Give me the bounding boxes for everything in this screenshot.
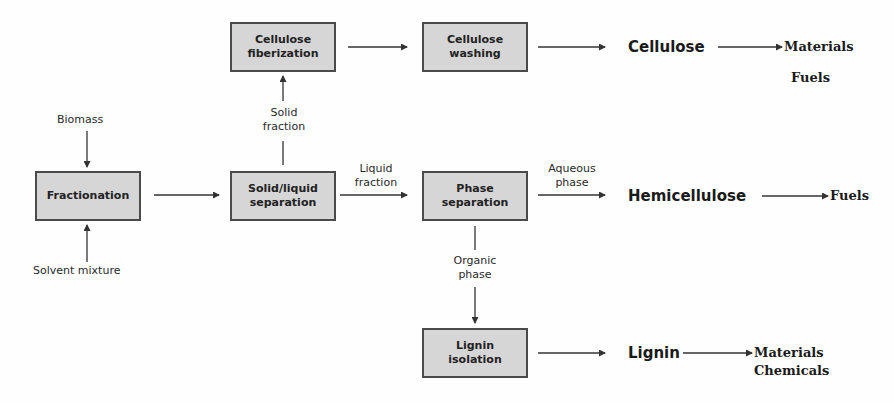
- use-lignin-chemicals: Chemicals: [754, 363, 829, 378]
- node-label-line: washing: [449, 47, 500, 61]
- label-line: phase: [538, 176, 606, 190]
- node-label-line: separation: [442, 196, 509, 210]
- node-label-line: isolation: [448, 353, 502, 367]
- label-line: Liquid: [346, 162, 406, 176]
- label-line: Aqueous: [538, 162, 606, 176]
- use-hemicellulose-fuels: Fuels: [830, 188, 869, 203]
- node-label-line: separation: [250, 196, 317, 210]
- input-solvent-mixture: Solvent mixture: [33, 264, 120, 278]
- product-lignin: Lignin: [628, 344, 680, 362]
- node-label-line: Lignin: [456, 339, 494, 353]
- node-label-line: fiberization: [248, 47, 319, 61]
- node-solid-liquid-separation: Solid/liquid separation: [230, 171, 336, 221]
- product-cellulose: Cellulose: [628, 38, 705, 56]
- node-label-line: Solid/liquid: [248, 182, 318, 196]
- edge-label-liquid-fraction: Liquid fraction: [346, 162, 406, 190]
- label-line: fraction: [256, 120, 312, 134]
- node-cellulose-washing: Cellulose washing: [422, 22, 528, 72]
- label-line: Solid: [256, 106, 312, 120]
- edge-label-aqueous-phase: Aqueous phase: [538, 162, 606, 190]
- node-lignin-isolation: Lignin isolation: [422, 328, 528, 378]
- node-fractionation: Fractionation: [35, 171, 141, 221]
- node-phase-separation: Phase separation: [422, 171, 528, 221]
- label-line: fraction: [346, 176, 406, 190]
- use-lignin-materials: Materials: [754, 345, 824, 360]
- edge-label-solid-fraction: Solid fraction: [256, 106, 312, 134]
- node-label-line: Phase: [456, 182, 493, 196]
- input-biomass: Biomass: [57, 113, 103, 127]
- label-line: Organic: [445, 254, 505, 268]
- use-cellulose-fuels: Fuels: [791, 70, 830, 85]
- node-label-line: Cellulose: [255, 33, 311, 47]
- label-line: phase: [445, 268, 505, 282]
- use-cellulose-materials: Materials: [784, 39, 854, 54]
- node-cellulose-fiberization: Cellulose fiberization: [230, 22, 336, 72]
- product-hemicellulose: Hemicellulose: [628, 187, 746, 205]
- biomass-fractionation-diagram: Fractionation Cellulose fiberization Sol…: [0, 0, 894, 403]
- node-fractionation-label: Fractionation: [47, 189, 129, 203]
- node-label-line: Cellulose: [447, 33, 503, 47]
- edge-label-organic-phase: Organic phase: [445, 254, 505, 282]
